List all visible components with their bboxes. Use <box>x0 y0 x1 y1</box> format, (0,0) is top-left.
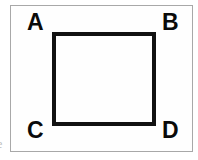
vertex-label-c: C <box>27 119 44 142</box>
vertex-label-d: D <box>162 119 179 142</box>
page-edge-artifact-glyph: e <box>0 139 5 150</box>
vertex-label-b: B <box>162 11 179 34</box>
vertex-label-a: A <box>27 11 44 34</box>
square-abcd-shape <box>52 32 156 126</box>
diagram-canvas: A B C D e <box>0 0 198 160</box>
